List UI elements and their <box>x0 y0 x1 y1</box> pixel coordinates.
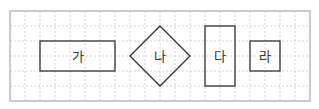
shape-grid-diagram: 가 나 다 라 <box>0 0 319 109</box>
shape-label-da: 다 <box>214 49 226 64</box>
shape-label-ra: 라 <box>259 49 271 64</box>
shape-label-na: 나 <box>154 49 166 64</box>
shape-label-ga: 가 <box>72 49 84 64</box>
